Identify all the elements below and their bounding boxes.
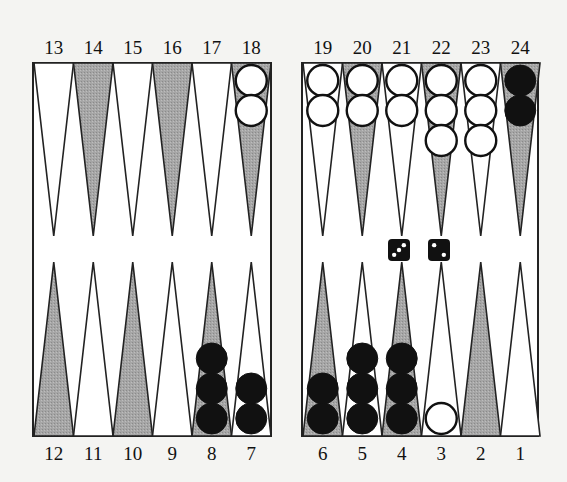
point-number-17: 17 [192,38,232,57]
point-number-13: 13 [34,38,74,57]
point-number-8: 8 [192,444,232,463]
white-checker[interactable] [347,95,378,126]
point-number-15: 15 [113,38,153,57]
die-pip [432,243,436,247]
point-number-16: 16 [152,38,192,57]
board-graphic [0,0,567,482]
point-number-11: 11 [73,444,113,463]
point-number-5: 5 [342,444,382,463]
white-checker[interactable] [465,95,496,126]
white-checker[interactable] [307,95,338,126]
black-checker[interactable] [505,95,536,126]
point-number-24: 24 [500,38,540,57]
black-checker[interactable] [505,65,536,96]
point-number-22: 22 [421,38,461,57]
black-checker[interactable] [307,403,338,434]
black-checker[interactable] [386,373,417,404]
white-checker[interactable] [426,403,457,434]
point-number-4: 4 [382,444,422,463]
black-checker[interactable] [236,403,267,434]
black-checker[interactable] [386,343,417,374]
point-number-2: 2 [461,444,501,463]
white-checker[interactable] [465,65,496,96]
black-checker[interactable] [386,403,417,434]
die-pip [397,248,401,252]
black-checker[interactable] [347,343,378,374]
die-2[interactable] [428,239,450,261]
point-number-10: 10 [113,444,153,463]
white-checker[interactable] [386,65,417,96]
black-checker[interactable] [347,403,378,434]
die-1[interactable] [388,239,410,261]
point-number-18: 18 [231,38,271,57]
point-number-20: 20 [342,38,382,57]
right-half-board [302,63,538,436]
black-checker[interactable] [347,373,378,404]
black-checker[interactable] [196,403,227,434]
point-number-21: 21 [382,38,422,57]
black-checker[interactable] [196,343,227,374]
point-number-12: 12 [34,444,74,463]
point-number-19: 19 [303,38,343,57]
black-checker[interactable] [307,373,338,404]
die-pip [392,253,396,257]
white-checker[interactable] [236,95,267,126]
point-number-14: 14 [73,38,113,57]
white-checker[interactable] [386,95,417,126]
black-checker[interactable] [196,373,227,404]
white-checker[interactable] [347,65,378,96]
white-checker[interactable] [426,95,457,126]
point-number-7: 7 [231,444,271,463]
point-number-1: 1 [500,444,540,463]
point-number-23: 23 [461,38,501,57]
die-pip [442,253,446,257]
die-pip [402,243,406,247]
white-checker[interactable] [465,125,496,156]
white-checker[interactable] [236,65,267,96]
black-checker[interactable] [236,373,267,404]
point-number-3: 3 [421,444,461,463]
white-checker[interactable] [307,65,338,96]
point-number-9: 9 [152,444,192,463]
left-half-board [33,63,271,436]
point-number-6: 6 [303,444,343,463]
white-checker[interactable] [426,125,457,156]
white-checker[interactable] [426,65,457,96]
